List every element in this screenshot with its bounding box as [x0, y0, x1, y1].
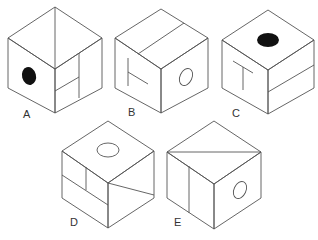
solid-oval-icon [20, 65, 38, 86]
hollow-oval-icon [231, 179, 249, 200]
label-e: E [174, 216, 181, 228]
cube-b: B [115, 9, 208, 118]
label-c: C [232, 107, 240, 119]
cube-e: E [167, 121, 261, 229]
label-b: B [128, 106, 135, 118]
hollow-oval-icon [177, 66, 195, 87]
solid-oval-icon [257, 33, 279, 47]
hollow-oval-icon [97, 143, 119, 157]
cube-c: C [222, 10, 314, 119]
label-d: D [70, 216, 78, 228]
cube-d: D [62, 121, 154, 228]
cube-a: A [8, 7, 102, 120]
cube-diagram: A B C D E [0, 0, 318, 240]
label-a: A [23, 108, 31, 120]
